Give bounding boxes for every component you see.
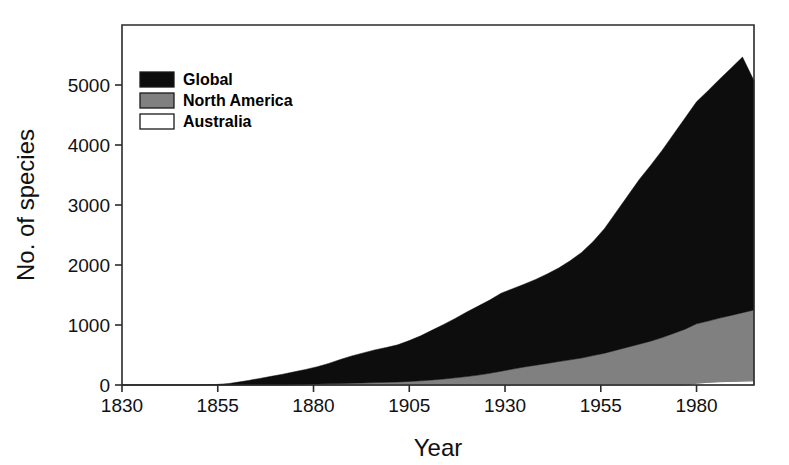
- y-axis-title: No. of species: [12, 129, 39, 281]
- legend-label-global: Global: [183, 71, 233, 88]
- legend-swatch-australia: [140, 114, 174, 129]
- x-tick-label: 1980: [675, 395, 717, 416]
- y-tick-label: 2000: [68, 255, 110, 276]
- y-tick-label: 0: [99, 375, 110, 396]
- y-tick-label: 3000: [68, 195, 110, 216]
- x-tick-label: 1955: [580, 395, 622, 416]
- legend-swatch-north-america: [140, 93, 174, 108]
- y-tick-label: 5000: [68, 75, 110, 96]
- x-tick-label: 1880: [292, 395, 334, 416]
- y-tick-label: 4000: [68, 135, 110, 156]
- legend-label-australia: Australia: [183, 113, 252, 130]
- y-tick-label: 1000: [68, 315, 110, 336]
- x-tick-label: 1930: [484, 395, 526, 416]
- figure-container: 1830185518801905193019551980 01000200030…: [0, 0, 789, 465]
- x-axis-ticks: [122, 385, 697, 392]
- x-axis-tick-labels: 1830185518801905193019551980: [101, 395, 718, 416]
- legend-swatch-global: [140, 72, 174, 87]
- y-axis-tick-labels: 010002000300040005000: [68, 75, 110, 396]
- legend-label-north-america: North America: [183, 92, 293, 109]
- x-tick-label: 1905: [388, 395, 430, 416]
- x-tick-label: 1855: [197, 395, 239, 416]
- x-axis-title: Year: [414, 434, 463, 461]
- y-axis-ticks: [115, 85, 122, 385]
- x-tick-label: 1830: [101, 395, 143, 416]
- stacked-area-chart: 1830185518801905193019551980 01000200030…: [0, 0, 789, 465]
